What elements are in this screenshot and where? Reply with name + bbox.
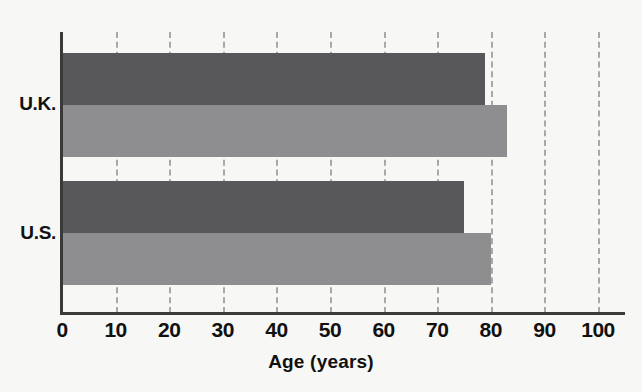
x-axis-title: Age (years) <box>0 351 642 373</box>
x-tick-label-100: 100 <box>581 318 615 342</box>
x-tick-label-30: 30 <box>212 318 234 342</box>
x-tick-label-60: 60 <box>372 318 394 342</box>
x-tick-label-0: 0 <box>56 318 67 342</box>
x-tick-label-40: 40 <box>265 318 287 342</box>
category-label-us: U.S. <box>6 222 56 244</box>
x-tick-label-90: 90 <box>533 318 555 342</box>
bar-us-series-dark <box>62 181 464 233</box>
x-tick-label-80: 80 <box>480 318 502 342</box>
bar-uk-series-dark <box>62 53 485 105</box>
x-tick-label-70: 70 <box>426 318 448 342</box>
bar-chart: U.K. U.S. 0102030405060708090100 Age (ye… <box>0 0 642 392</box>
x-axis-line <box>60 312 625 315</box>
gridline-100 <box>598 32 600 313</box>
bar-us-series-light <box>62 233 491 285</box>
gridline-90 <box>544 32 546 313</box>
x-tick-label-50: 50 <box>319 318 341 342</box>
y-axis-line <box>60 32 63 315</box>
x-tick-label-10: 10 <box>104 318 126 342</box>
x-tick-label-20: 20 <box>158 318 180 342</box>
category-label-uk: U.K. <box>6 93 56 115</box>
bar-uk-series-light <box>62 105 507 157</box>
gridline-80 <box>491 32 493 313</box>
